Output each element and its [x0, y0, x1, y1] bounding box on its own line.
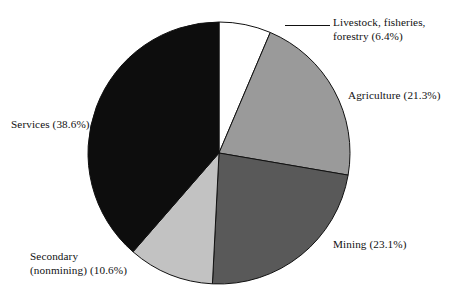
- slice-label-secondary-line1: Secondary: [30, 250, 78, 262]
- slice-label-mining: Mining (23.1%): [333, 238, 407, 252]
- slice-label-livestock-line1: Livestock, fisheries,: [333, 16, 426, 28]
- leader-line-livestock: [285, 25, 330, 26]
- slice-label-livestock: Livestock, fisheries, forestry (6.4%): [333, 16, 465, 43]
- slice-label-secondary: Secondary (nonmining) (10.6%): [30, 250, 170, 277]
- pie-slice-mining[interactable]: [212, 153, 348, 284]
- slice-label-agriculture: Agriculture (21.3%): [348, 89, 441, 103]
- pie-slices-group: [88, 22, 350, 284]
- slice-label-services: Services (38.6%): [11, 118, 90, 132]
- slice-label-livestock-line2: forestry (6.4%): [333, 30, 403, 42]
- slice-label-secondary-line2: (nonmining) (10.6%): [30, 264, 127, 276]
- pie-chart-figure: Livestock, fisheries, forestry (6.4%) Ag…: [0, 0, 469, 299]
